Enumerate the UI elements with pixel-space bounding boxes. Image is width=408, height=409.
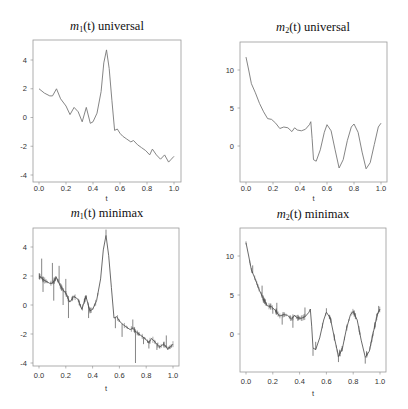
y-tick-label: -4 [20,171,27,180]
y-tick-label: 2 [23,272,27,281]
y-tick-label: 2 [23,84,27,93]
x-tick-label: 0.0 [34,371,44,380]
x-tick-label: 0.6 [321,377,331,386]
y-tick-label: 0 [23,301,27,310]
y-tick-label: 5 [230,291,234,300]
y-tick-label: 4 [23,56,27,65]
x-tick-label: 0.4 [295,184,305,193]
x-tick-label: 0.2 [61,184,71,193]
y-tick-label: 5 [230,104,234,113]
plot-frame [33,40,181,182]
y-tick-label: 10 [226,66,234,75]
x-tick-label: 0.2 [268,377,278,386]
x-tick-label: 1.0 [169,184,179,193]
chart-2: 0.00.20.40.60.81.0t0510 [226,42,387,203]
x-tick-label: 0.8 [349,184,359,193]
x-tick-label: 0.4 [294,377,304,386]
x-tick-label: 0.0 [241,377,251,386]
y-tick-label: 10 [226,252,234,261]
x-tick-label: 1.0 [376,184,386,193]
x-tick-label: 0.4 [88,184,98,193]
y-tick-label: -2 [20,142,27,151]
y-tick-label: 0 [230,330,234,339]
x-tick-label: 1.0 [168,371,178,380]
chart-4: 0.00.20.40.60.81.0t0510 [226,228,386,398]
x-axis-label: t [105,194,108,203]
x-tick-label: 0.2 [268,184,278,193]
y-tick-label: 0 [23,113,27,122]
y-tick-label: 4 [23,243,27,252]
x-tick-label: 0.0 [34,184,44,193]
x-axis-label: t [312,194,315,203]
y-tick-label: 0 [230,142,234,151]
x-tick-label: 0.6 [115,184,125,193]
x-tick-label: 0.8 [141,371,151,380]
x-tick-label: 1.0 [375,377,385,386]
x-tick-label: 0.8 [348,377,358,386]
chart-3: 0.00.20.40.60.81.0t-4-2024 [20,228,179,393]
x-axis-label: t [105,384,108,393]
series-line [246,57,381,169]
series-line [39,50,174,162]
y-tick-label: -2 [20,330,27,339]
series-line [39,235,173,348]
chart-1: 0.00.20.40.60.81.0t-4-2024 [20,40,181,203]
x-tick-label: 0.6 [322,184,332,193]
plot-canvas: 0.00.20.40.60.81.0t-4-20240.00.20.40.60.… [0,0,408,409]
plot-frame [240,42,387,182]
x-tick-label: 0.2 [61,371,71,380]
x-tick-label: 0.4 [87,371,97,380]
x-tick-label: 0.6 [114,371,124,380]
series-line [246,243,380,358]
x-tick-label: 0.0 [241,184,251,193]
x-axis-label: t [312,389,315,398]
y-tick-label: -4 [20,359,27,368]
x-tick-label: 0.8 [142,184,152,193]
